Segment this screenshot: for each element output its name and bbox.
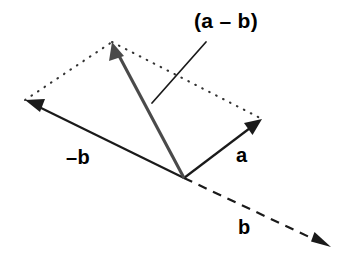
dotted-edge-right-line	[112, 42, 262, 119]
label-a-minus-b: (a – b)	[194, 10, 258, 31]
vector-a-minus-b-shaft	[117, 52, 184, 178]
label-b: b	[238, 217, 250, 237]
vector-diagram: (a – b) –b a b	[0, 0, 349, 271]
vector-b	[184, 178, 331, 247]
vector-negative-b-arrowhead	[25, 99, 45, 112]
vector-a-minus-b	[109, 42, 184, 178]
vector-b-shaft	[184, 178, 322, 243]
vector-b-arrowhead	[311, 232, 331, 247]
label-negative-b: –b	[66, 147, 90, 167]
vector-diagram-canvas	[0, 0, 349, 271]
vector-a	[184, 119, 262, 178]
vector-negative-b-shaft	[35, 105, 184, 178]
label-a: a	[236, 145, 247, 165]
vector-a-arrowhead	[244, 119, 262, 135]
vector-negative-b	[25, 99, 184, 178]
leader-line-a-minus-b	[152, 42, 206, 103]
dotted-edge-left-line	[25, 42, 112, 100]
